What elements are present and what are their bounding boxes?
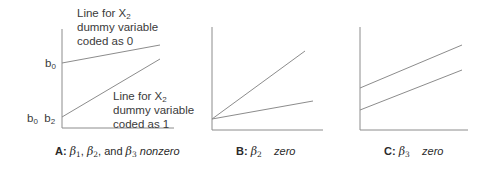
caption-text: , and xyxy=(98,145,126,157)
caption-text: zero xyxy=(422,145,443,157)
panel-c-line-upper xyxy=(360,45,462,88)
caption-letter: B: xyxy=(236,145,248,157)
subscript: 3 xyxy=(132,150,137,159)
caption-b: B: β2 zero xyxy=(236,145,295,158)
y-label-b0: b0 xyxy=(45,56,56,70)
panel-b-plot xyxy=(212,27,323,130)
subscript: 2 xyxy=(257,150,262,159)
panel-b-line-shallow xyxy=(212,101,313,119)
subscript: 3 xyxy=(405,150,410,159)
annotation-text: dummy variable xyxy=(77,20,158,34)
caption-letter: C: xyxy=(384,145,396,157)
caption-text: nonzero xyxy=(140,145,180,157)
caption-letter: A: xyxy=(55,145,67,157)
annotation-text: dummy variable xyxy=(113,103,194,117)
annotation-text: Line for X xyxy=(77,7,126,19)
caption-c: C: β3 zero xyxy=(384,145,443,158)
annotation-text: Line for X xyxy=(113,90,162,102)
annotation-text: coded as 0 xyxy=(77,34,158,48)
panel-c-plot xyxy=(360,27,468,130)
caption-text: zero xyxy=(274,145,295,157)
subscript: 0 xyxy=(51,62,55,71)
panel-c-line-lower xyxy=(360,70,462,110)
annotation-text: coded as 1 xyxy=(113,117,194,131)
subscript: 2 xyxy=(51,117,55,126)
panel-b-line-steep xyxy=(212,51,305,119)
annotation-coded-0: Line for X2 dummy variable coded as 0 xyxy=(77,6,158,48)
caption-a: A: β1, β2, and β3 nonzero xyxy=(55,145,180,158)
subscript: 0 xyxy=(33,117,37,126)
annotation-coded-1: Line for X2 dummy variable coded as 1 xyxy=(113,89,194,131)
y-label-b0-b2: b0 b2 xyxy=(27,111,55,125)
